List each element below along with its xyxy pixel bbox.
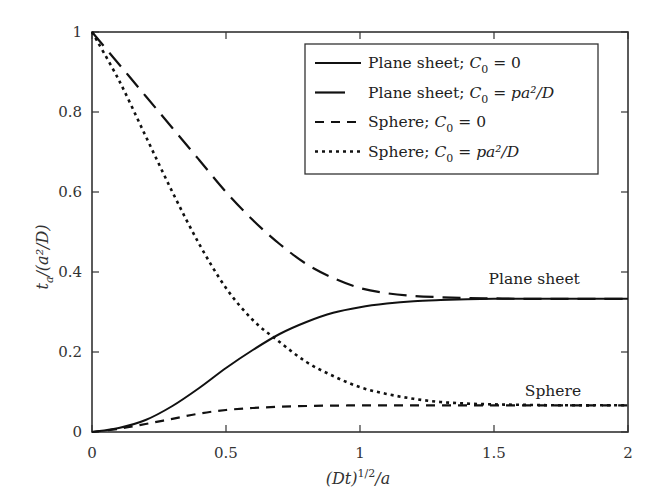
series-1-curve <box>92 299 628 432</box>
x-tick-label: 1.5 <box>482 444 506 462</box>
x-tick-label: 2 <box>623 444 633 462</box>
curve-annotations: Plane sheetSphere <box>489 270 582 400</box>
y-tick-label: 1 <box>72 23 82 41</box>
y-tick-label: 0.8 <box>58 103 82 121</box>
y-tick-label: 0.6 <box>58 183 82 201</box>
line-chart: 00.511.5200.20.40.60.81 Plane sheetSpher… <box>0 0 664 500</box>
curve-annotation: Plane sheet <box>489 270 581 288</box>
y-axis-label: ta/(a²/D) <box>33 224 56 289</box>
curve-annotation: Sphere <box>525 382 581 400</box>
x-tick-label: 1 <box>355 444 365 462</box>
x-axis-label: (Dt)1/2/a <box>326 467 390 488</box>
y-tick-label: 0.2 <box>58 343 82 361</box>
y-tick-label: 0 <box>72 423 82 441</box>
y-tick-label: 0.4 <box>58 263 82 281</box>
x-tick-label: 0.5 <box>214 444 238 462</box>
legend: Plane sheet; C0 = 0Plane sheet; C0 = pa²… <box>305 44 598 174</box>
x-tick-label: 0 <box>87 444 97 462</box>
